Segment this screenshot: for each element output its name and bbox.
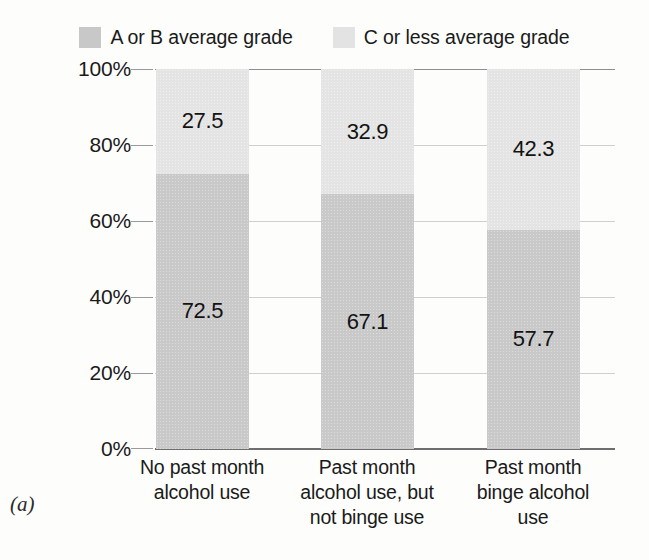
bar-value-a-or-b-2: 67.1 xyxy=(347,309,389,335)
plot-area: 27.5 72.5 32.9 67.1 42.3 57.7 xyxy=(155,69,615,449)
y-tick-mark-0 xyxy=(131,448,153,449)
bar-group-past-month-binge-alcohol-use: 42.3 57.7 xyxy=(487,69,580,449)
x-tick-line-2: alcohol use xyxy=(127,480,277,505)
y-tick-label-40: 40% xyxy=(41,285,131,309)
y-axis: 100% 80% 60% 40% 20% 0% xyxy=(0,69,131,449)
x-tick-line-1: Past month xyxy=(292,455,442,480)
bar-segment-a-or-b-1: 72.5 xyxy=(156,174,249,450)
stacked-bar-chart-figure: A or B average grade C or less average g… xyxy=(0,0,649,560)
chart-legend: A or B average grade C or less average g… xyxy=(0,22,649,52)
legend-swatch-icon-c-or-less xyxy=(333,27,355,48)
bar-group-no-past-month-alcohol-use: 27.5 72.5 xyxy=(156,69,249,449)
legend-swatch-icon-a-or-b xyxy=(79,27,101,48)
bar-segment-c-or-less-1: 27.5 xyxy=(156,69,249,174)
x-tick-line-3: not binge use xyxy=(292,505,442,530)
legend-label-a-or-b: A or B average grade xyxy=(110,26,292,49)
y-tick-mark-20 xyxy=(131,373,153,374)
x-tick-label-no-past-month-alcohol-use: No past month alcohol use xyxy=(127,455,277,505)
legend-entry-a-or-b: A or B average grade xyxy=(79,26,292,49)
x-tick-line-2: binge alcohol xyxy=(458,480,608,505)
x-tick-label-past-month-alcohol-not-binge: Past month alcohol use, but not binge us… xyxy=(292,455,442,530)
y-tick-mark-60 xyxy=(131,221,153,222)
bar-value-c-or-less-3: 42.3 xyxy=(513,136,555,162)
bar-group-past-month-alcohol-not-binge: 32.9 67.1 xyxy=(321,69,414,449)
x-tick-label-past-month-binge-alcohol-use: Past month binge alcohol use xyxy=(458,455,608,530)
bar-value-c-or-less-2: 32.9 xyxy=(347,119,389,145)
bar-value-a-or-b-3: 57.7 xyxy=(513,326,555,352)
legend-label-c-or-less: C or less average grade xyxy=(364,26,570,49)
bar-value-c-or-less-1: 27.5 xyxy=(182,108,224,134)
y-tick-mark-100 xyxy=(131,69,153,70)
y-tick-label-100: 100% xyxy=(41,57,131,81)
bar-segment-a-or-b-3: 57.7 xyxy=(487,230,580,449)
y-tick-label-60: 60% xyxy=(41,209,131,233)
bar-value-a-or-b-1: 72.5 xyxy=(182,298,224,324)
x-axis: No past month alcohol use Past month alc… xyxy=(155,455,615,555)
x-tick-line-1: No past month xyxy=(127,455,277,480)
y-tick-mark-80 xyxy=(131,145,153,146)
x-tick-line-3: use xyxy=(458,505,608,530)
y-tick-label-0: 0% xyxy=(41,437,131,461)
y-tick-label-80: 80% xyxy=(41,133,131,157)
bar-segment-c-or-less-3: 42.3 xyxy=(487,69,580,230)
bar-segment-c-or-less-2: 32.9 xyxy=(321,69,414,194)
x-tick-line-1: Past month xyxy=(458,455,608,480)
y-tick-label-20: 20% xyxy=(41,361,131,385)
y-tick-mark-40 xyxy=(131,297,153,298)
x-tick-line-2: alcohol use, but xyxy=(292,480,442,505)
bar-segment-a-or-b-2: 67.1 xyxy=(321,194,414,449)
legend-entry-c-or-less: C or less average grade xyxy=(333,26,570,49)
figure-panel-label: (a) xyxy=(10,492,35,517)
